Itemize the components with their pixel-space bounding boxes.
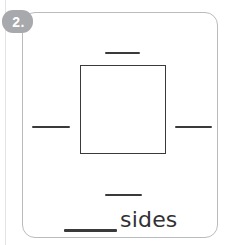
answer-unit-label: sides [120, 206, 178, 234]
adjacent-card-edge [5, 0, 6, 245]
answer-row: sides [64, 210, 214, 238]
answer-blank-input[interactable] [64, 229, 117, 232]
side-blank-top[interactable] [105, 52, 140, 54]
figure-area: sides [22, 12, 218, 238]
side-blank-right[interactable] [175, 126, 212, 128]
side-blank-left[interactable] [32, 126, 70, 128]
side-blank-bottom[interactable] [105, 194, 142, 196]
worksheet-page: 2. sides [0, 0, 229, 245]
square-shape [80, 65, 166, 154]
